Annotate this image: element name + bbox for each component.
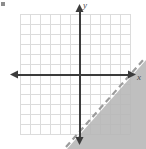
x-axis-label: x <box>137 73 141 82</box>
linear-inequality-graph: y x <box>0 0 146 149</box>
graph-canvas <box>0 0 146 149</box>
x-axis-arrow-left <box>10 71 18 79</box>
x-axis <box>10 71 136 79</box>
y-axis-label: y <box>83 1 87 10</box>
